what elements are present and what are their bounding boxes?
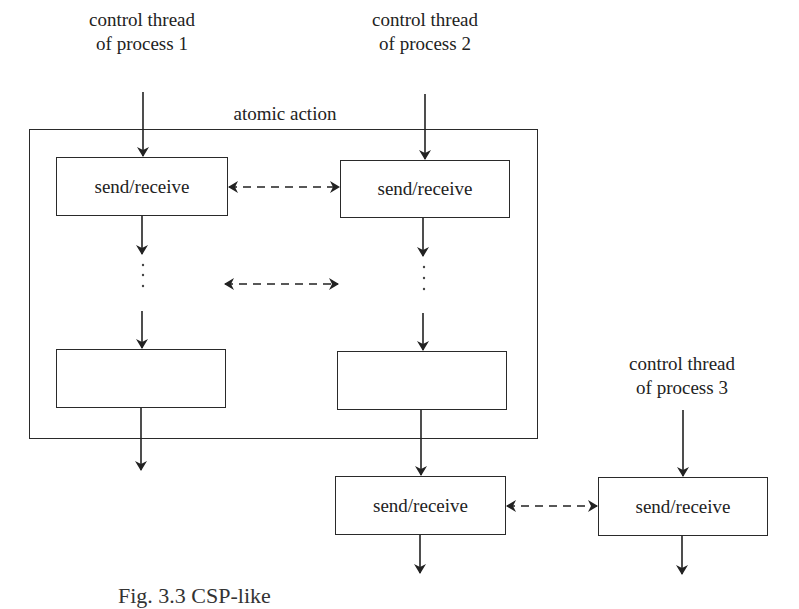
figure-caption: Fig. 3.3 CSP-like bbox=[118, 583, 271, 609]
